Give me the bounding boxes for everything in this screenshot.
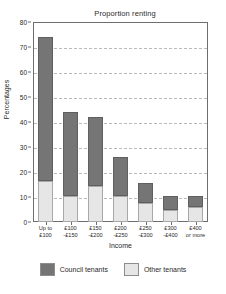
x-tick-label-line: -£400	[163, 232, 177, 239]
bar-group[interactable]	[163, 22, 178, 222]
bar-segment-council-tenants[interactable]	[188, 196, 203, 207]
bar-segment-other-tenants[interactable]	[163, 210, 178, 223]
legend-swatch	[124, 263, 139, 276]
y-tick-label: 70	[20, 44, 27, 51]
legend-entry[interactable]: Council tenants	[40, 263, 108, 276]
y-axis: 01020304050607080	[0, 22, 31, 222]
bars-layer	[33, 22, 208, 222]
bar-group[interactable]	[188, 22, 203, 222]
x-tick-label-line: -£150	[63, 232, 77, 239]
bar-segment-other-tenants[interactable]	[188, 207, 203, 222]
x-tick-label-line: £250	[138, 225, 152, 232]
legend-label: Other tenants	[144, 266, 186, 273]
x-axis: Up to£100£100-£150£150-£200£200-£250£250…	[33, 224, 208, 244]
x-tick-label-line: £150	[88, 225, 102, 232]
y-tick-mark	[28, 72, 31, 73]
bar-segment-council-tenants[interactable]	[113, 157, 128, 196]
y-tick-mark	[28, 172, 31, 173]
bar-segment-council-tenants[interactable]	[163, 196, 178, 210]
bar-segment-council-tenants[interactable]	[63, 112, 78, 196]
chart-legend: Council tenantsOther tenants	[0, 263, 226, 276]
y-tick-mark	[28, 47, 31, 48]
legend-label: Council tenants	[60, 266, 108, 273]
y-tick-mark	[28, 122, 31, 123]
x-tick-label: £250-£300	[138, 225, 152, 239]
y-tick-label: 60	[20, 69, 27, 76]
y-tick-label: 30	[20, 144, 27, 151]
bar-group[interactable]	[138, 22, 153, 222]
bar-group[interactable]	[88, 22, 103, 222]
x-tick-label: £300-£400	[163, 225, 177, 239]
y-tick-label: 20	[20, 169, 27, 176]
bar-segment-other-tenants[interactable]	[88, 186, 103, 222]
legend-entry[interactable]: Other tenants	[124, 263, 186, 276]
y-tick-mark	[28, 147, 31, 148]
x-tick-label: £400or more	[186, 225, 205, 239]
x-tick-label: £100-£150	[63, 225, 77, 239]
x-tick-label: £200-£250	[113, 225, 127, 239]
y-tick-mark	[28, 97, 31, 98]
x-axis-title: Income	[33, 242, 208, 249]
y-tick-label: 80	[20, 19, 27, 26]
x-tick-label: £150-£200	[88, 225, 102, 239]
y-tick-label: 0	[23, 219, 27, 226]
y-tick-label: 10	[20, 194, 27, 201]
y-tick-mark	[28, 222, 31, 223]
bar-segment-other-tenants[interactable]	[113, 196, 128, 222]
x-tick-label-line: £400	[186, 225, 205, 232]
x-tick-label-line: £200	[113, 225, 127, 232]
bar-segment-other-tenants[interactable]	[38, 181, 53, 222]
bar-segment-council-tenants[interactable]	[138, 183, 153, 203]
bar-group[interactable]	[113, 22, 128, 222]
x-tick-label-line: or more	[186, 232, 205, 239]
x-tick-label-line: £100	[39, 232, 52, 239]
bar-segment-other-tenants[interactable]	[63, 196, 78, 222]
bar-group[interactable]	[63, 22, 78, 222]
bar-group[interactable]	[38, 22, 53, 222]
chart-figure: Proportion renting Percentages 010203040…	[0, 0, 226, 294]
x-tick-label-line: £300	[163, 225, 177, 232]
bar-segment-council-tenants[interactable]	[88, 117, 103, 186]
y-tick-mark	[28, 22, 31, 23]
x-tick-label-line: Up to	[39, 225, 52, 232]
x-tick-label: Up to£100	[39, 225, 52, 239]
bar-segment-other-tenants[interactable]	[138, 203, 153, 222]
y-tick-label: 50	[20, 94, 27, 101]
x-tick-label-line: £100	[63, 225, 77, 232]
y-tick-mark	[28, 197, 31, 198]
chart-title: Proportion renting	[40, 9, 210, 18]
y-tick-label: 40	[20, 119, 27, 126]
x-tick-label-line: -£300	[138, 232, 152, 239]
legend-swatch	[40, 263, 55, 276]
x-tick-label-line: -£250	[113, 232, 127, 239]
x-tick-label-line: -£200	[88, 232, 102, 239]
bar-segment-council-tenants[interactable]	[38, 37, 53, 181]
